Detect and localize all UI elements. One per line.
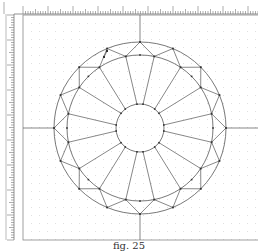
vertex-points[interactable] [53,41,227,215]
figure-caption: fig. 25 [0,240,258,251]
vertical-ruler[interactable] [6,14,14,240]
selected-vertex-handle[interactable] [103,50,108,58]
drawing-area-border [23,15,258,240]
horizontal-ruler[interactable] [4,2,258,14]
facet-diagram-canvas[interactable] [0,0,258,251]
axis-lines [23,15,258,240]
table-circle[interactable] [116,104,164,152]
